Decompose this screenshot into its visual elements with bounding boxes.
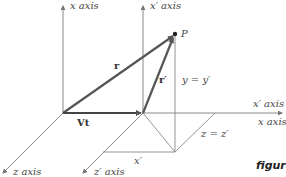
x-prime-axis-label: x′ axis (253, 98, 284, 109)
z-equals-label: z = z′ (200, 128, 229, 139)
y-equals-label: y = y′ (181, 74, 211, 85)
vector-r-prime-label: r′ (159, 74, 167, 85)
origin-to-foot (143, 113, 175, 152)
x-axis-label: x axis (258, 116, 286, 127)
z-axis-line (3, 113, 63, 173)
vector-r-prime (143, 38, 173, 113)
x-prime-label: x′ (134, 155, 143, 166)
vector-r-label: r (114, 60, 120, 71)
figure-caption: figur (256, 159, 286, 172)
galilean-frames-diagram: x axis x′ axis P r r′ y = y′ Vt x′ axis … (0, 0, 286, 177)
point-p-label: P (180, 28, 188, 39)
vector-r (63, 36, 173, 113)
y-prime-axis-label: x′ axis (150, 0, 181, 11)
point-p-dot (173, 32, 177, 36)
y-axis-label: x axis (70, 0, 99, 11)
vt-label: Vt (76, 117, 90, 128)
z-axis-label: z axis (12, 166, 41, 177)
z-prime-axis-label: z′ axis (93, 166, 125, 177)
